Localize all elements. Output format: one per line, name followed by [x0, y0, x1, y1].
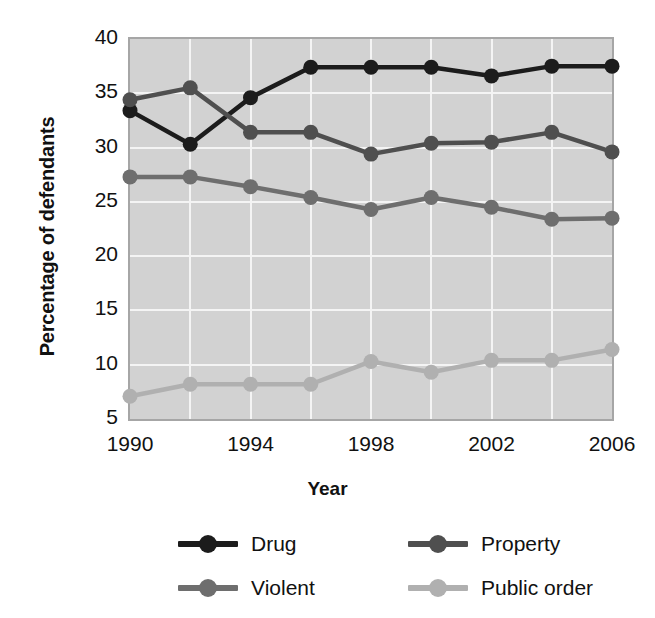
x-axis-title: Year — [0, 478, 655, 500]
data-point-marker — [484, 68, 499, 83]
x-axis-tick-label: 1998 — [326, 432, 416, 456]
legend-row-2: Violent Public order — [178, 566, 638, 610]
data-point-marker — [243, 179, 258, 194]
data-point-marker — [544, 353, 559, 368]
legend-row-1: Drug Property — [178, 522, 638, 566]
legend-marker-drug — [199, 535, 217, 553]
data-point-marker — [243, 125, 258, 140]
y-axis-tick-label: 30 — [62, 134, 118, 158]
y-axis-tick-label: 40 — [62, 25, 118, 49]
data-point-marker — [605, 144, 620, 159]
x-axis-tick-label: 1990 — [85, 432, 175, 456]
y-axis-tick-label: 10 — [62, 351, 118, 375]
y-axis-tick-label: 35 — [62, 79, 118, 103]
x-axis-tick-label: 2002 — [447, 432, 537, 456]
series-drug — [123, 59, 620, 152]
data-point-marker — [424, 190, 439, 205]
plot-inner — [130, 39, 612, 419]
data-point-marker — [183, 80, 198, 95]
legend-marker-public-order — [429, 579, 447, 597]
legend-label-property: Property — [481, 532, 560, 556]
legend-swatch-public-order-icon — [408, 578, 468, 598]
legend-item-violent[interactable]: Violent — [178, 576, 408, 600]
legend-marker-property — [429, 535, 447, 553]
y-axis-tick-label: 25 — [62, 188, 118, 212]
data-point-marker — [183, 137, 198, 152]
series-line — [130, 88, 612, 154]
legend-swatch-property-icon — [408, 534, 468, 554]
y-axis-tick-label: 20 — [62, 242, 118, 266]
data-point-marker — [424, 136, 439, 151]
x-axis-tick-label: 2006 — [567, 432, 655, 456]
legend-swatch-drug-icon — [178, 534, 238, 554]
data-point-marker — [364, 60, 379, 75]
data-point-marker — [303, 60, 318, 75]
data-point-marker — [544, 212, 559, 227]
data-point-marker — [243, 377, 258, 392]
data-point-marker — [303, 377, 318, 392]
data-point-marker — [243, 90, 258, 105]
y-axis-title: Percentage of defendants — [36, 67, 59, 407]
line-chart-figure: Percentage of defendants 510152025303540… — [0, 0, 655, 618]
series-property — [123, 80, 620, 161]
data-point-marker — [183, 377, 198, 392]
legend-marker-violent — [199, 579, 217, 597]
data-point-marker — [123, 92, 138, 107]
legend-label-public-order: Public order — [481, 576, 593, 600]
data-point-marker — [544, 125, 559, 140]
y-axis-tick-label: 5 — [62, 405, 118, 429]
data-point-marker — [484, 353, 499, 368]
series-layer — [130, 39, 612, 419]
legend-item-property[interactable]: Property — [408, 532, 638, 556]
y-axis-tick-label: 15 — [62, 296, 118, 320]
data-point-marker — [605, 211, 620, 226]
data-point-marker — [484, 135, 499, 150]
data-point-marker — [484, 200, 499, 215]
data-point-marker — [605, 342, 620, 357]
data-point-marker — [303, 125, 318, 140]
data-point-marker — [364, 202, 379, 217]
legend-item-drug[interactable]: Drug — [178, 532, 408, 556]
data-point-marker — [544, 59, 559, 74]
data-point-marker — [424, 60, 439, 75]
legend-label-drug: Drug — [251, 532, 297, 556]
data-point-marker — [183, 169, 198, 184]
legend-swatch-violent-icon — [178, 578, 238, 598]
series-violent — [123, 169, 620, 226]
data-point-marker — [123, 169, 138, 184]
data-point-marker — [303, 190, 318, 205]
data-point-marker — [605, 59, 620, 74]
x-axis-tick-label: 1994 — [206, 432, 296, 456]
data-point-marker — [123, 389, 138, 404]
chart-legend: Drug Property Violent — [178, 522, 638, 610]
legend-item-public-order[interactable]: Public order — [408, 576, 638, 600]
legend-label-violent: Violent — [251, 576, 315, 600]
data-point-marker — [424, 365, 439, 380]
series-public-order — [123, 342, 620, 404]
plot-area — [128, 37, 614, 421]
data-point-marker — [364, 147, 379, 162]
data-point-marker — [364, 354, 379, 369]
